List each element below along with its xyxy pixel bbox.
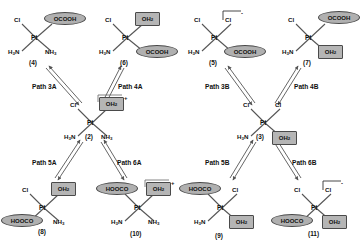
ligand-h3n-bottom-left: H3N [64,134,75,140]
structure-number-4: (4) [29,60,37,66]
ligand-oh2-bottom-right: OH2 [318,45,343,59]
ligand-oh2-bottom-right: OH2 [272,131,297,145]
structure-number-6: (6) [120,60,128,66]
ligand-h3n-bottom-left: H3N [194,219,205,225]
ligand-h3n-bottom-left: H3N [188,49,199,55]
charge-bracket [221,9,247,21]
charge-bracket [97,93,127,103]
charge-bracket [321,179,347,191]
path-label-5a: Path 5A [32,160,57,167]
ligand-h3n-bottom-left: H3N [8,49,19,55]
charge-sign-negative: - [241,10,243,16]
metal-center-pt: Pt [305,35,311,41]
path-label-6b: Path 6B [292,160,317,167]
metal-center-pt: Pt [122,35,128,41]
ligand-ocooh-bottom-right: OCOOH [224,45,266,58]
path-label-6a: Path 6A [117,160,142,167]
ligand-cl-top-left: Cl [243,102,249,108]
ligand-h3n-bottom-left: H3N [282,49,293,55]
ligand-cl-top-right: Cl [232,187,238,193]
ligand-oh2-bottom-right: OH2 [229,215,254,229]
metal-center-pt: Pt [31,35,37,41]
structure-number-11: (11) [308,231,319,237]
metal-center-pt: Pt [217,205,223,211]
metal-center-pt: Pt [260,120,266,126]
ligand-hooco-top-left: HOOCO [179,182,221,195]
ligand-cl-top-left: Cl [70,102,76,108]
ligand-h3n-bottom-left: H3N [99,49,110,55]
path-label-4a: Path 4A [118,84,143,91]
path-label-4b: Path 4B [294,84,319,91]
ligand-ocooh-top-right: OCOOH [318,11,360,24]
ligand-cl-top-left: Cl [22,187,28,193]
path-label-3a: Path 3A [32,84,57,91]
path-label-5b: Path 5B [205,160,230,167]
charge-sign-positive: + [124,95,128,101]
ligand-cl-top-left: Cl [14,17,20,23]
structure-number-2: (2) [85,134,93,140]
charge-bracket [144,178,174,188]
ligand-nh3-bottom-right: NH3 [101,134,112,140]
ligand-cl-top-left: Cl [105,17,111,23]
ligand-nh3-bottom-right: NH3 [53,219,64,225]
charge-sign-negative: - [341,180,343,186]
ligand-nh3-bottom-right: NH3 [148,219,159,225]
charge-sign-positive: + [171,180,175,186]
ligand-hooco-bottom-left: HOOCO [271,214,313,227]
metal-center-pt: Pt [39,205,45,211]
ligand-ocooh-bottom-right: OCOOH [136,45,178,58]
structure-number-3: (3) [256,134,264,140]
ligand-oh2-top-right: OH2 [135,12,160,26]
ligand-hooco-top-left: HOOCO [96,182,138,195]
ligand-h3n-bottom-left: H3N [237,134,248,140]
structure-number-8: (8) [38,229,46,235]
structure-number-7: (7) [303,60,311,66]
ligand-nh3-bottom-right: NH3 [45,49,56,55]
metal-center-pt: Pt [134,205,140,211]
ligand-ocooh-top-right: OCOOH [44,12,86,25]
structure-number-9: (9) [215,233,223,239]
ligand-cl-top-right: Cl [275,102,281,108]
path-label-3b: Path 3B [205,84,230,91]
metal-center-pt: Pt [211,35,217,41]
metal-center-pt: Pt [87,120,93,126]
ligand-cl-top-left: Cl [194,17,200,23]
reaction-scheme-diagram: Cl OCOOH H3N NH3 Pt (4) Cl OH2 H3N OCOOH… [0,0,363,246]
metal-center-pt: Pt [311,205,317,211]
structure-number-10: (10) [130,231,141,237]
ligand-oh2-bottom-right: OH2 [322,215,347,229]
ligand-hooco-bottom-left: HOOCO [1,214,43,227]
ligand-oh2-top-right: OH2 [51,182,76,196]
ligand-h3n-bottom-left: H3N [111,219,122,225]
ligand-cl-top-left: Cl [288,17,294,23]
structure-number-5: (5) [209,60,217,66]
ligand-cl-top-left: Cl [294,187,300,193]
